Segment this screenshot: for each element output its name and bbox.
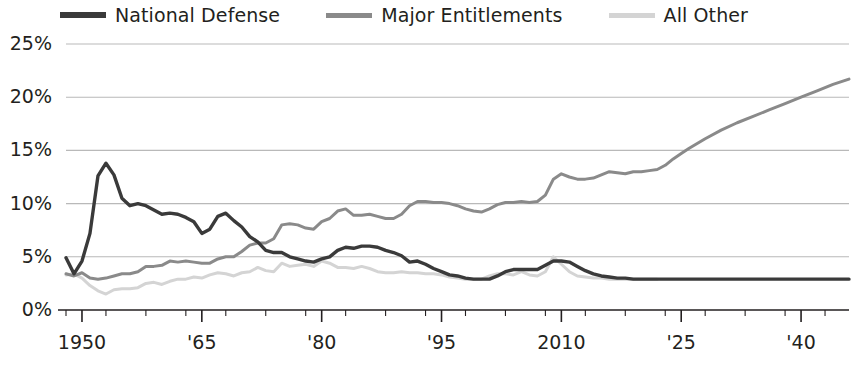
x-axis-tick-label: 2010 (537, 333, 585, 352)
y-axis-tick-label: 5% (0, 247, 52, 266)
series-lines (66, 79, 849, 294)
x-axis-tick-label: '95 (427, 333, 456, 352)
chart-svg (0, 0, 863, 366)
y-axis-tick-label: 25% (0, 34, 52, 53)
plot-area: 0%5%10%15%20%25% 1950'65'80'952010'25'40 (0, 0, 863, 366)
y-axis-tick-label: 15% (0, 140, 52, 159)
x-axis (58, 310, 849, 322)
x-axis-tick-label: '40 (786, 333, 815, 352)
gridlines (66, 44, 849, 257)
y-axis-tick-label: 20% (0, 87, 52, 106)
chart-container: National Defense Major Entitlements All … (0, 0, 863, 366)
x-axis-tick-label: '80 (307, 333, 336, 352)
x-axis-tick-label: 1950 (58, 333, 106, 352)
x-axis-tick-label: '65 (187, 333, 216, 352)
y-axis-tick-label: 10% (0, 194, 52, 213)
x-axis-tick-label: '25 (667, 333, 696, 352)
y-axis-tick-label: 0% (0, 300, 52, 319)
